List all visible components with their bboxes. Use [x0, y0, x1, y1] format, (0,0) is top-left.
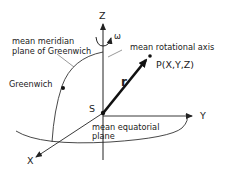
point-p — [148, 54, 152, 58]
rotational-axis-leader-line — [108, 50, 122, 57]
origin-s-label: S — [89, 103, 95, 114]
rotational-axis-label: mean rotational axis — [130, 42, 214, 52]
geocentric-coordinate-diagram: Z ω mean rotational axis P(X,Y,Z) r S Y … — [0, 0, 228, 169]
z-axis-label: Z — [99, 10, 106, 21]
origin-point — [101, 111, 105, 115]
omega-label: ω — [114, 31, 121, 41]
y-axis-label: Y — [199, 110, 206, 121]
meridian-label-line2: plane of Greenwich — [12, 46, 91, 56]
equatorial-label-line2: plane — [92, 131, 115, 141]
x-axis-label: X — [27, 155, 34, 166]
greenwich-point — [61, 86, 65, 90]
greenwich-label: Greenwich — [9, 79, 52, 89]
meridian-label-line1: mean meridian — [12, 36, 74, 46]
point-p-label: P(X,Y,Z) — [156, 59, 194, 70]
vector-r-label: r — [121, 75, 127, 89]
